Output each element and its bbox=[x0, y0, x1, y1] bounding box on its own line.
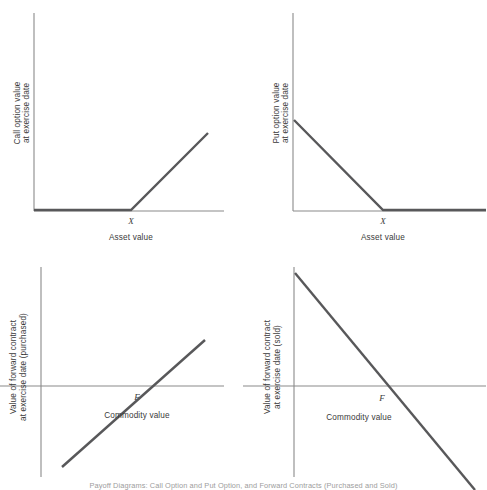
call-payoff-line bbox=[34, 133, 208, 210]
chart-panel-put-option: X Asset value Put option value at exerci… bbox=[243, 0, 486, 245]
put-option-plot: X Asset value Put option value at exerci… bbox=[243, 0, 486, 245]
figure-caption: Payoff Diagrams: Call Option and Put Opt… bbox=[0, 481, 487, 490]
forward-purchased-x-axis-title: Commodity value bbox=[104, 411, 170, 420]
forward-sold-y-axis-title-line2: at exercise date (sold) bbox=[273, 325, 282, 409]
forward-sold-y-axis-title-line1: Value of forward contract bbox=[263, 319, 272, 414]
forward-sold-plot: F Commodity value Value of forward contr… bbox=[243, 245, 486, 490]
call-option-plot: X Asset value Call option value at exerc… bbox=[0, 0, 243, 245]
call-y-axis-title-line1: Call option value bbox=[13, 81, 22, 144]
call-x-axis-title: Asset value bbox=[109, 233, 153, 242]
forward-purchased-plot: F Commodity value Value of forward contr… bbox=[0, 245, 243, 490]
put-y-axis-title-line1: Put option value bbox=[272, 82, 281, 143]
forward-purchased-payoff-line bbox=[62, 340, 205, 467]
payoff-diagram-figure: X Asset value Call option value at exerc… bbox=[0, 0, 487, 490]
forward-purchased-strike-label: F bbox=[133, 392, 140, 402]
put-x-axis-title: Asset value bbox=[361, 233, 405, 242]
put-payoff-line bbox=[294, 120, 486, 210]
forward-sold-payoff-line bbox=[295, 273, 475, 490]
forward-purchased-y-axis-title-line2: at exercise date (purchased) bbox=[19, 313, 28, 421]
forward-sold-x-axis-title: Commodity value bbox=[326, 413, 392, 422]
forward-sold-strike-label: F bbox=[378, 393, 385, 403]
chart-panel-forward-purchased: F Commodity value Value of forward contr… bbox=[0, 245, 243, 490]
call-y-axis-title-line2: at exercise date bbox=[22, 83, 31, 143]
call-strike-label: X bbox=[127, 216, 134, 226]
chart-panel-call-option: X Asset value Call option value at exerc… bbox=[0, 0, 243, 245]
chart-panel-forward-sold: F Commodity value Value of forward contr… bbox=[243, 245, 486, 490]
put-strike-label: X bbox=[379, 216, 386, 226]
put-y-axis-title-line2: at exercise date bbox=[281, 83, 290, 143]
forward-purchased-y-axis-title-line1: Value of forward contract bbox=[9, 319, 18, 414]
